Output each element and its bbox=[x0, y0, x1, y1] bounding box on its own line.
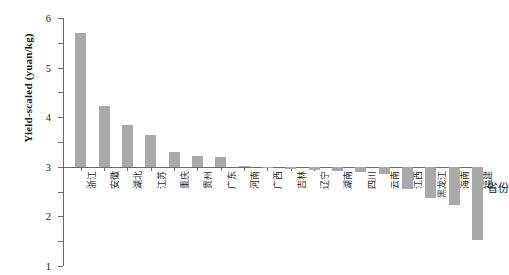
y-tick-label: 1 bbox=[46, 261, 51, 272]
y-tick: 6 bbox=[58, 18, 63, 19]
x-tick bbox=[221, 167, 222, 171]
bar bbox=[332, 167, 343, 171]
y-tick: 4 bbox=[58, 68, 63, 69]
y-tick: 1 bbox=[58, 142, 63, 143]
x-category-label: 湖北 bbox=[131, 171, 144, 189]
y-axis-title: Yield-scaled (yuan/kg) bbox=[22, 8, 34, 168]
y-tick: -3 bbox=[58, 241, 63, 242]
x-category-label: 重庆 bbox=[178, 171, 191, 189]
bar-chart-figure: Yield-scaled (yuan/kg) 6543210-1-2-3-4 浙… bbox=[0, 0, 509, 275]
x-category-label: 河南 bbox=[248, 171, 261, 189]
x-tick bbox=[244, 167, 245, 171]
y-tick: 2 bbox=[58, 117, 63, 118]
x-category-label: 广东 bbox=[225, 171, 238, 189]
bar bbox=[169, 152, 180, 167]
x-category-label: 安徽 bbox=[108, 171, 121, 189]
x-category-label: 辽宁 bbox=[318, 171, 331, 189]
x-category-label: 海南 bbox=[458, 171, 471, 189]
y-tick-label: 6 bbox=[46, 13, 51, 24]
x-category-label: 四川 bbox=[365, 171, 378, 189]
bar bbox=[122, 125, 133, 167]
bar bbox=[285, 167, 296, 169]
x-tick bbox=[197, 167, 198, 171]
bar bbox=[309, 167, 320, 170]
bar bbox=[75, 33, 86, 167]
x-tick bbox=[81, 167, 82, 171]
y-tick-label: 2 bbox=[46, 211, 51, 222]
x-tick bbox=[104, 167, 105, 171]
x-category-label: 江西 bbox=[411, 171, 424, 189]
y-tick: 0 bbox=[58, 167, 63, 168]
y-tick: 5 bbox=[58, 43, 63, 44]
y-tick: -4 bbox=[58, 266, 63, 267]
bar bbox=[192, 156, 203, 167]
bar bbox=[215, 157, 226, 167]
x-category-label: 吉林 bbox=[295, 171, 308, 189]
x-category-label: 广西 bbox=[271, 171, 284, 189]
zero-baseline bbox=[63, 167, 483, 168]
y-tick-label: 4 bbox=[46, 112, 51, 123]
y-tick-label: 3 bbox=[46, 161, 51, 172]
x-category-label: 江苏 bbox=[155, 171, 168, 189]
y-axis-spine bbox=[63, 18, 64, 266]
y-tick-label: 5 bbox=[46, 62, 51, 73]
x-tick bbox=[151, 167, 152, 171]
x-category-label: 浙江 bbox=[85, 171, 98, 189]
y-tick: -1 bbox=[58, 192, 63, 193]
x-category-label: 云南 bbox=[388, 171, 401, 189]
x-category-label: 贵州 bbox=[201, 171, 214, 189]
plot-area: 6543210-1-2-3-4 浙江安徽湖北江苏重庆贵州广东河南广西吉林辽宁湖南… bbox=[63, 18, 483, 266]
x-category-label: 湖南 bbox=[341, 171, 354, 189]
bar bbox=[99, 106, 110, 167]
x-tick bbox=[127, 167, 128, 171]
bar bbox=[262, 167, 273, 168]
y-tick: 3 bbox=[58, 92, 63, 93]
x-category-label: 黑龙江 bbox=[435, 171, 448, 198]
bar bbox=[145, 135, 156, 167]
bar bbox=[239, 166, 250, 167]
x-tick bbox=[174, 167, 175, 171]
x-axis-title: 省份 bbox=[487, 179, 509, 195]
y-tick: -2 bbox=[58, 216, 63, 217]
